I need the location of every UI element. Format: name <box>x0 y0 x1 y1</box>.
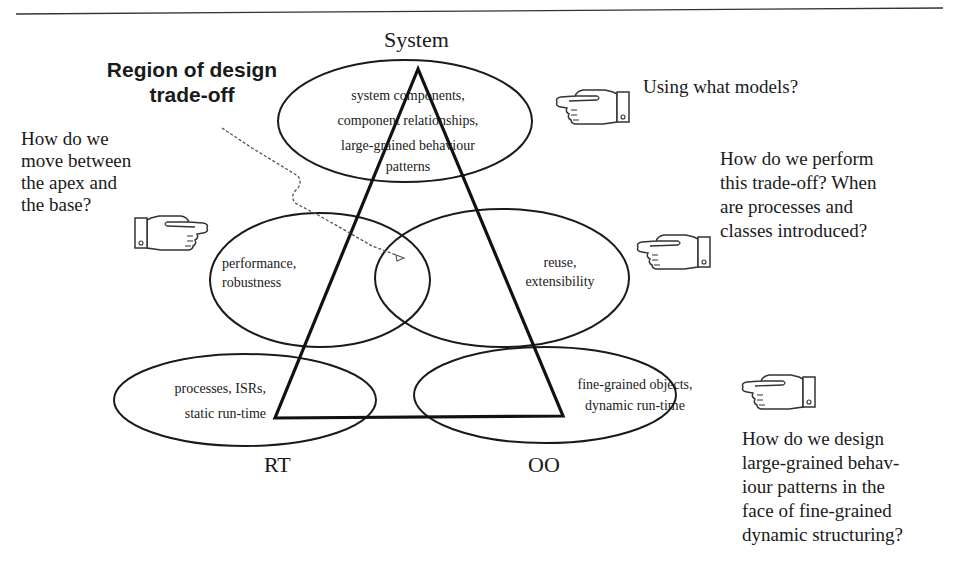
question-trade-off: How do we perform this trade-off? When a… <box>720 147 877 243</box>
top-rule <box>16 8 943 14</box>
callout-region-of-design-tradeoff: Region of design trade-off <box>82 57 302 107</box>
question-trade-off-line-1: How do we perform <box>720 147 877 171</box>
region-performance-line-2: robustness <box>222 273 296 292</box>
question-apex-base-line-2: move between <box>21 150 131 172</box>
question-design: How do we design large-grained behav- io… <box>742 427 903 547</box>
question-trade-off-line-3: are processes and <box>720 195 877 219</box>
region-text-performance: performance, robustness <box>222 254 296 292</box>
region-rt-line-1: processes, ISRs, <box>148 376 266 401</box>
region-text-system: system components, component relationshi… <box>328 83 488 175</box>
region-system-line-4: patterns <box>328 158 488 175</box>
region-system-line-1: system components, <box>328 83 488 108</box>
region-system-line-2: component relationships, <box>328 108 488 133</box>
region-text-reuse: reuse, extensibility <box>510 253 610 291</box>
region-oo-line-1: fine-grained objects, <box>560 374 710 395</box>
region-text-rt: processes, ISRs, static run-time <box>148 376 266 426</box>
pointing-hand-right-icon <box>129 210 211 254</box>
question-design-line-3: iour patterns in the <box>742 475 903 499</box>
pointing-hand-left-icon <box>634 229 716 273</box>
callout-line-1: Region of design <box>82 57 302 82</box>
pointing-hand-left-icon <box>739 369 821 413</box>
question-design-line-4: face of fine-grained <box>742 499 903 523</box>
region-reuse-line-2: extensibility <box>510 272 610 291</box>
question-apex-base-line-4: the base? <box>21 194 131 216</box>
question-design-line-2: large-grained behav- <box>742 451 903 475</box>
question-apex-base-line-1: How do we <box>21 128 131 150</box>
question-using-what-models: Using what models? <box>643 76 798 98</box>
callout-line-2: trade-off <box>82 82 302 107</box>
apex-label-system: System <box>384 27 449 53</box>
region-text-oo: fine-grained objects, dynamic run-time <box>560 374 710 416</box>
pointing-hand-left-icon <box>553 84 635 128</box>
region-reuse-line-1: reuse, <box>510 253 610 272</box>
question-design-line-5: dynamic structuring? <box>742 523 903 547</box>
region-performance-line-1: performance, <box>222 254 296 273</box>
base-label-oo: OO <box>528 452 560 478</box>
question-design-line-1: How do we design <box>742 427 903 451</box>
region-system-line-3: large-grained behaviour <box>328 133 488 158</box>
question-trade-off-line-4: classes introduced? <box>720 219 877 243</box>
base-label-rt: RT <box>264 452 291 478</box>
region-rt-line-2: static run-time <box>148 401 266 426</box>
question-apex-base-line-3: the apex and <box>21 172 131 194</box>
question-trade-off-line-2: this trade-off? When <box>720 171 877 195</box>
arrow-head-icon <box>396 255 404 261</box>
region-oo-line-2: dynamic run-time <box>560 395 710 416</box>
question-apex-base: How do we move between the apex and the … <box>21 128 131 216</box>
